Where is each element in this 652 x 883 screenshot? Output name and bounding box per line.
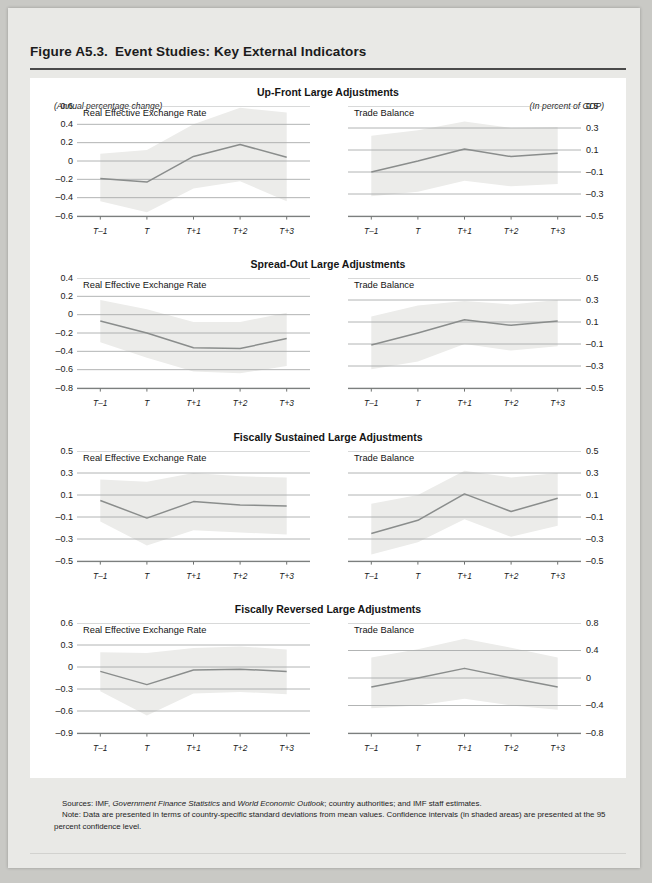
series-label: Real Effective Exchange Rate: [83, 280, 206, 290]
x-tick-label: T+3: [536, 744, 580, 752]
y-tick-label: –0.3: [586, 535, 620, 544]
y-tick-label: 0: [39, 157, 73, 166]
y-tick-label: 0.5: [39, 447, 73, 456]
chart-trade-balance-panel-3: Trade Balance0.50.30.1–0.1–0.3–0.5T–1TT+…: [348, 451, 581, 561]
x-tick-label: T+1: [172, 399, 216, 407]
y-tick-label: 0: [39, 310, 73, 319]
chart-reer-panel-2: Real Effective Exchange Rate0.40.20–0.2–…: [77, 278, 310, 388]
plot-area: [348, 278, 581, 388]
y-tick-label: –0.3: [586, 190, 620, 199]
y-tick-label: 0.4: [39, 274, 73, 283]
chart-trade-balance-panel-1: Trade Balance0.50.30.1–0.1–0.3–0.5T–1TT+…: [348, 106, 581, 216]
y-tick-label: –0.6: [39, 212, 73, 221]
title-rule: [30, 68, 626, 70]
y-tick-label: –0.5: [39, 557, 73, 566]
plot-area: [77, 106, 310, 216]
series-label: Real Effective Exchange Rate: [83, 625, 206, 635]
y-tick-label: 0.3: [39, 641, 73, 650]
y-tick-label: 0.6: [39, 102, 73, 111]
y-tick-label: 0.1: [39, 491, 73, 500]
sources-label: Sources:: [62, 799, 93, 808]
x-tick-label: T: [125, 744, 169, 752]
y-tick-label: –0.4: [39, 193, 73, 202]
x-tick-label: T+1: [443, 744, 487, 752]
note-line: Note: Data are presented in terms of cou…: [54, 809, 624, 832]
y-tick-label: –0.1: [39, 513, 73, 522]
confidence-band: [100, 300, 286, 373]
y-tick-label: 0.5: [586, 102, 620, 111]
y-tick-label: 0.1: [586, 318, 620, 327]
y-tick-label: 0.3: [586, 296, 620, 305]
x-tick-label: T+2: [489, 572, 533, 580]
x-tick-label: T–1: [349, 399, 393, 407]
x-axis: [348, 561, 581, 570]
x-axis: [348, 216, 581, 225]
x-tick-label: T: [125, 572, 169, 580]
figure-page: Figure A5.3.Event Studies: Key External …: [8, 8, 640, 868]
sources-text-3: ; country authorities; and IMF staff est…: [324, 799, 481, 808]
x-tick-label: T+2: [489, 227, 533, 235]
chart-canvas: Up-Front Large Adjustments (Annual perce…: [30, 78, 626, 778]
y-tick-label: –0.1: [586, 168, 620, 177]
x-tick-label: T+1: [443, 572, 487, 580]
x-tick-label: T+2: [218, 572, 262, 580]
y-tick-label: 0.3: [39, 469, 73, 478]
x-tick-label: T+2: [218, 399, 262, 407]
y-tick-label: –0.6: [39, 365, 73, 374]
sources-text-2: and: [220, 799, 238, 808]
panel-title-fiscally-reversed: Fiscally Reversed Large Adjustments: [30, 603, 626, 615]
x-tick-label: T+1: [172, 572, 216, 580]
plot-area: [77, 278, 310, 388]
panel-title-up-front: Up-Front Large Adjustments: [30, 86, 626, 98]
y-tick-label: 0.4: [586, 646, 620, 655]
x-tick-label: T+3: [536, 227, 580, 235]
confidence-band: [371, 471, 557, 555]
x-tick-label: T+1: [172, 227, 216, 235]
y-tick-label: –0.8: [586, 729, 620, 738]
y-tick-label: –0.4: [39, 347, 73, 356]
chart-reer-panel-1: Real Effective Exchange Rate0.60.40.20–0…: [77, 106, 310, 216]
confidence-band: [371, 121, 557, 196]
y-tick-label: 0.3: [586, 124, 620, 133]
y-tick-label: 0.1: [586, 491, 620, 500]
note-label: Note:: [62, 810, 81, 819]
y-tick-label: 0.2: [39, 138, 73, 147]
x-tick-label: T+3: [265, 572, 309, 580]
figure-notes: Sources: IMF, Government Finance Statist…: [54, 798, 624, 832]
sources-text-1: IMF,: [95, 799, 112, 808]
figure-title-text: Event Studies: Key External Indicators: [115, 44, 366, 59]
plot-area: [77, 623, 310, 733]
y-tick-label: 0.1: [586, 146, 620, 155]
sources-italic-1: Government Finance Statistics: [112, 799, 219, 808]
x-axis: [77, 216, 310, 225]
plot-area: [348, 106, 581, 216]
y-tick-label: 0.6: [39, 619, 73, 628]
y-tick-label: –0.6: [39, 707, 73, 716]
y-tick-label: –0.2: [39, 329, 73, 338]
x-axis: [77, 561, 310, 570]
x-tick-label: T+3: [536, 399, 580, 407]
x-tick-label: T+2: [218, 744, 262, 752]
x-tick-label: T–1: [349, 744, 393, 752]
series-label: Real Effective Exchange Rate: [83, 108, 206, 118]
x-tick-label: T+2: [489, 744, 533, 752]
x-tick-label: T–1: [349, 572, 393, 580]
x-tick-label: T+2: [489, 399, 533, 407]
y-tick-label: –0.5: [586, 212, 620, 221]
chart-trade-balance-panel-4: Trade Balance0.80.40–0.4–0.8T–1TT+1T+2T+…: [348, 623, 581, 733]
chart-reer-panel-3: Real Effective Exchange Rate0.50.30.1–0.…: [77, 451, 310, 561]
series-label: Real Effective Exchange Rate: [83, 453, 206, 463]
x-tick-label: T+3: [265, 227, 309, 235]
confidence-band: [100, 473, 286, 546]
x-tick-label: T: [125, 227, 169, 235]
confidence-band: [100, 646, 286, 715]
y-tick-label: –0.1: [586, 513, 620, 522]
x-axis: [348, 388, 581, 397]
y-tick-label: 0: [586, 674, 620, 683]
x-tick-label: T+1: [172, 744, 216, 752]
y-tick-label: –0.3: [586, 362, 620, 371]
x-tick-label: T–1: [78, 399, 122, 407]
y-tick-label: 0.5: [586, 447, 620, 456]
x-tick-label: T+3: [265, 399, 309, 407]
plot-area: [77, 451, 310, 561]
